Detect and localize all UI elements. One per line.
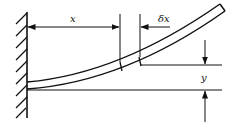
deflected-beam bbox=[27, 4, 225, 89]
label-x: x bbox=[70, 13, 76, 24]
label-y: y bbox=[200, 72, 207, 83]
label-dx: δx bbox=[158, 13, 170, 24]
fixed-wall bbox=[16, 12, 27, 118]
dimension-x bbox=[28, 14, 170, 62]
beam-diagram: x δx y bbox=[0, 0, 236, 132]
